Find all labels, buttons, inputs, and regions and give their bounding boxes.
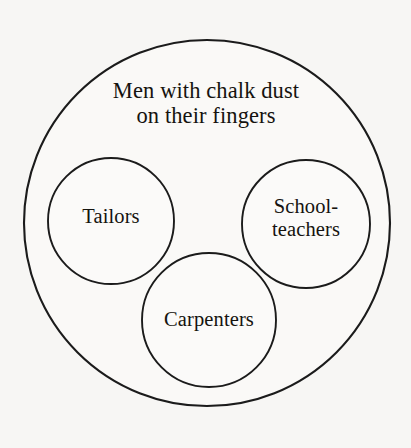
euler-diagram: Men with chalk dust on their fingers Tai…	[0, 0, 411, 448]
set-circle-carpenters	[142, 253, 276, 387]
set-circle-schoolteachers	[242, 160, 370, 288]
set-circle-tailors	[48, 158, 174, 284]
diagram-canvas	[0, 0, 411, 448]
